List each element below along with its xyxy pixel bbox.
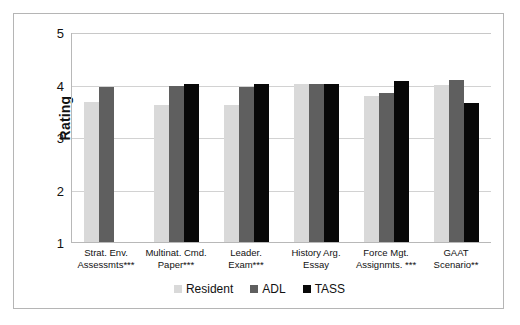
- bar-group-1: [72, 33, 142, 242]
- bar-groups: [72, 33, 491, 242]
- bar-resident-3[interactable]: [224, 105, 239, 242]
- y-axis-tick-5: 5: [38, 26, 64, 41]
- bar-group-5: [351, 33, 421, 242]
- y-axis-tick-3: 3: [38, 131, 64, 146]
- bar-group-4: [281, 33, 351, 242]
- bar-resident-2[interactable]: [154, 105, 169, 242]
- chart-legend: ResidentADLTASS: [14, 282, 505, 296]
- x-axis-category-labels: Strat. Env. Assessmts***Multinat. Cmd. P…: [71, 245, 491, 279]
- x-axis-label-4: History Arg. Essay: [281, 245, 351, 279]
- bar-adl-1[interactable]: [99, 87, 114, 242]
- bar-tass-4[interactable]: [324, 84, 339, 242]
- x-axis-label-2: Multinat. Cmd. Paper***: [141, 245, 211, 279]
- bar-resident-6[interactable]: [434, 85, 449, 242]
- legend-item-adl[interactable]: ADL: [250, 282, 285, 296]
- x-axis-label-6: GAAT Scenario**: [421, 245, 491, 279]
- bar-tass-2[interactable]: [184, 84, 199, 242]
- bar-adl-3[interactable]: [239, 87, 254, 242]
- x-axis-label-1: Strat. Env. Assessmts***: [71, 245, 141, 279]
- bar-group-6: [421, 33, 491, 242]
- chart-frame: Rating 12345 Strat. Env. Assessmts***Mul…: [13, 13, 504, 309]
- bar-adl-6[interactable]: [449, 80, 464, 242]
- bar-adl-4[interactable]: [309, 84, 324, 242]
- y-axis-tick-2: 2: [38, 183, 64, 198]
- bar-adl-5[interactable]: [379, 93, 394, 242]
- bar-resident-1[interactable]: [84, 102, 99, 242]
- bar-tass-3[interactable]: [254, 84, 269, 242]
- legend-item-resident[interactable]: Resident: [174, 282, 233, 296]
- bar-tass-5[interactable]: [394, 81, 409, 242]
- bar-group-2: [142, 33, 212, 242]
- bar-tass-6[interactable]: [464, 103, 479, 243]
- bar-adl-2[interactable]: [169, 86, 184, 242]
- legend-swatch-icon-adl: [250, 285, 258, 293]
- y-axis-tick-labels: 12345: [38, 14, 64, 308]
- legend-label: Resident: [186, 282, 233, 296]
- bar-resident-5[interactable]: [364, 96, 379, 242]
- legend-label: TASS: [315, 282, 345, 296]
- legend-item-tass[interactable]: TASS: [303, 282, 345, 296]
- bar-group-3: [212, 33, 282, 242]
- legend-label: ADL: [262, 282, 285, 296]
- plot-area: [71, 33, 491, 243]
- legend-swatch-icon-resident: [174, 285, 182, 293]
- x-axis-label-3: Leader. Exam***: [211, 245, 281, 279]
- y-axis-tick-4: 4: [38, 78, 64, 93]
- y-axis-tick-1: 1: [38, 236, 64, 251]
- x-axis-label-5: Force Mgt. Assignmts. ***: [351, 245, 421, 279]
- legend-swatch-icon-tass: [303, 285, 311, 293]
- bar-resident-4[interactable]: [294, 84, 309, 242]
